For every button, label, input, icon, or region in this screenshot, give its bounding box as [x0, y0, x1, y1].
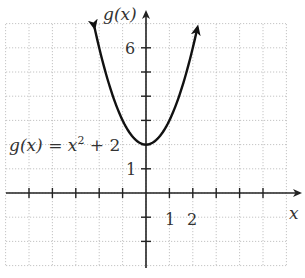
x-axis-label: x	[289, 203, 299, 223]
x-tick-label-2: 2	[187, 210, 197, 229]
x-tick-label-1: 1	[165, 210, 175, 229]
y-axis-label: g(x)	[103, 4, 137, 24]
y-tick-label-1: 1	[126, 160, 136, 179]
graph-figure: g(x) x 6 1 1 2 g(x) = x2 + 2	[0, 0, 305, 278]
y-tick-label-6: 6	[125, 39, 135, 58]
function-label: g(x) = x2 + 2	[9, 134, 120, 155]
